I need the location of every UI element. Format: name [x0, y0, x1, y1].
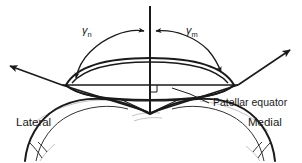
gamma-n-label: γn: [82, 25, 92, 39]
gamma-m-subscript: m: [192, 30, 198, 39]
patellar-tilt-diagram: γn γm Patellar equator Lateral Medial: [0, 0, 302, 163]
diagram-canvas: [0, 0, 302, 163]
lateral-label: Lateral: [16, 117, 51, 129]
gamma-n-subscript: n: [88, 30, 92, 39]
medial-label: Medial: [248, 117, 282, 129]
gamma-m-label: γm: [186, 25, 198, 39]
patellar-equator-label: Patellar equator: [213, 97, 287, 108]
medial-facet-arrow: [238, 50, 290, 85]
lateral-facet-arrow: [10, 66, 62, 85]
